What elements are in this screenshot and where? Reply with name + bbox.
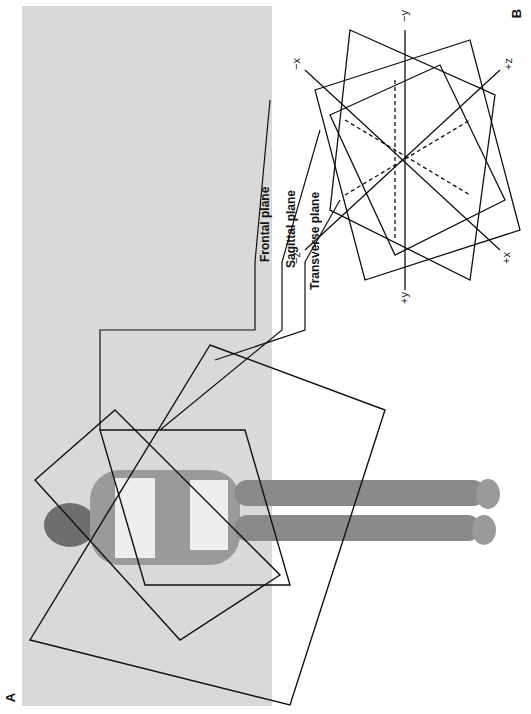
- figure-lines: [0, 0, 531, 714]
- frontal-plane-b: [330, 65, 505, 255]
- axis-label-minus-z: −z: [290, 252, 302, 264]
- label-transverse-plane: Transverse plane: [308, 192, 322, 290]
- reclining-figure: [44, 470, 500, 565]
- axis-label-plus-x: +x: [500, 252, 512, 264]
- panel-letter-a: A: [3, 693, 18, 702]
- axis-label-minus-x: −x: [290, 58, 302, 70]
- schematic-planes-b: [315, 30, 520, 280]
- axis-label-plus-z: +z: [502, 58, 514, 70]
- label-frontal-plane: Frontal plane: [258, 187, 272, 262]
- axis-label-plus-y: +y: [398, 292, 410, 304]
- panel-letter-b: B: [509, 9, 524, 18]
- axis-label-minus-y: −y: [398, 10, 410, 22]
